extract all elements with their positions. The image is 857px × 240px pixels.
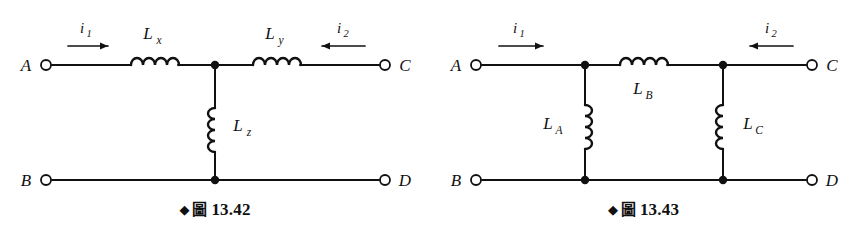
inductor-ly-coil [253, 58, 301, 65]
circuit-diagram-tee: A C B D i 1 i 2 L x L y L z [0, 0, 430, 195]
current-i2-symbol: i [337, 20, 341, 36]
terminal-c-circle[interactable] [807, 60, 817, 70]
current-i1-subscript: 1 [86, 28, 91, 39]
junction-dot-bottom-left [581, 176, 589, 184]
current-i2-arrow [750, 43, 793, 50]
terminal-c-label: C [826, 56, 838, 75]
inductor-ly-subscript: y [277, 34, 284, 47]
inductor-lc-symbol: L [742, 114, 752, 133]
inductor-ly-symbol: L [264, 24, 274, 43]
current-i1-symbol: i [513, 20, 517, 36]
terminal-b-label: B [21, 171, 32, 190]
caption-diamond-icon: ◆ [608, 202, 618, 218]
terminal-c-circle[interactable] [380, 60, 390, 70]
caption-diamond-icon: ◆ [179, 202, 189, 218]
current-i2-symbol: i [765, 20, 769, 36]
current-i1-arrow [499, 43, 543, 50]
figure-13-43-caption: ◆圖13.43 [430, 198, 857, 220]
inductor-la-symbol: L [542, 114, 552, 133]
junction-dot-top [211, 61, 219, 69]
junction-dot-top-left [581, 61, 589, 69]
terminal-d-circle[interactable] [380, 175, 390, 185]
figure-13-43: A C B D i 1 i 2 L B L A L C [430, 0, 857, 240]
terminal-a-label: A [20, 56, 32, 75]
current-i1-arrow [68, 43, 108, 50]
inductor-lc-coil [716, 105, 723, 149]
circuit-diagram-pi: A C B D i 1 i 2 L B L A L C [430, 0, 857, 195]
junction-dot-bottom [211, 176, 219, 184]
inductor-lz-subscript: z [246, 126, 252, 138]
current-i1-subscript: 1 [519, 28, 524, 39]
figure-13-42-caption: ◆圖13.42 [0, 198, 430, 220]
inductor-la-subscript: A [554, 124, 563, 136]
terminal-c-label: C [399, 56, 411, 75]
terminal-b-label: B [451, 171, 462, 190]
junction-dot-top-right [719, 61, 727, 69]
inductor-lc-subscript: C [755, 124, 763, 136]
terminal-a-circle[interactable] [41, 60, 51, 70]
current-i2-arrow [322, 43, 365, 50]
current-i2-subscript: 2 [343, 28, 349, 39]
caption-cjk-label: 圖 [621, 198, 636, 219]
caption-cjk-label: 圖 [192, 198, 207, 219]
caption-number: 13.43 [640, 200, 679, 220]
terminal-b-circle[interactable] [41, 175, 51, 185]
terminal-b-circle[interactable] [471, 175, 481, 185]
inductor-lb-symbol: L [632, 79, 642, 98]
inductor-lx-symbol: L [142, 24, 152, 43]
current-i2-subscript: 2 [771, 28, 777, 39]
inductor-lx-coil [131, 58, 179, 65]
inductor-lz-coil [208, 108, 215, 152]
terminal-d-label: D [398, 171, 412, 190]
inductor-lz-symbol: L [232, 116, 242, 135]
current-i1-symbol: i [80, 20, 84, 36]
terminal-a-circle[interactable] [471, 60, 481, 70]
junction-dot-bottom-right [719, 176, 727, 184]
inductor-la-coil [585, 105, 592, 149]
terminal-a-label: A [450, 56, 462, 75]
inductor-lx-subscript: x [155, 34, 162, 46]
terminal-d-circle[interactable] [807, 175, 817, 185]
terminal-d-label: D [825, 171, 839, 190]
inductor-lb-subscript: B [645, 89, 652, 101]
caption-number: 13.42 [211, 200, 250, 220]
figure-sheet: A C B D i 1 i 2 L x L y L z [0, 0, 857, 240]
inductor-lb-coil [620, 58, 668, 65]
figure-13-42: A C B D i 1 i 2 L x L y L z [0, 0, 430, 240]
